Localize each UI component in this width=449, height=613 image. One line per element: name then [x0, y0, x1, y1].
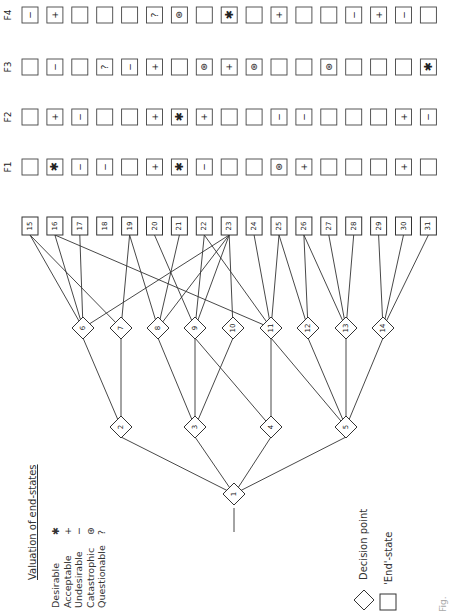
- factor-label-f4: F4: [3, 9, 13, 20]
- svg-text:8: 8: [154, 326, 162, 330]
- svg-text:+: +: [274, 11, 284, 19]
- tree-edge: [155, 235, 196, 328]
- svg-text:22: 22: [200, 222, 208, 231]
- factor-cell: ⊛: [271, 159, 287, 175]
- factor-cell: [346, 109, 362, 125]
- tree-edge: [383, 235, 404, 328]
- svg-text:−: −: [349, 11, 359, 19]
- decision-point-2: 2: [110, 416, 132, 438]
- end-state-22: 22: [196, 217, 212, 235]
- factor-cell: +: [221, 59, 237, 75]
- factor-cell: [321, 7, 337, 23]
- svg-text:3: 3: [191, 425, 199, 429]
- factor-cell: [122, 7, 138, 23]
- tree-edge: [55, 235, 271, 328]
- decision-point-11: 11: [260, 317, 282, 339]
- factor-cell: [221, 159, 237, 175]
- tree-edge: [271, 235, 279, 328]
- factor-cell: [246, 109, 262, 125]
- factor-cell: +: [396, 109, 412, 125]
- svg-text:6: 6: [79, 325, 87, 330]
- svg-text:13: 13: [342, 324, 350, 333]
- factor-cell: [271, 59, 287, 75]
- factor-cell: [22, 59, 38, 75]
- end-state-21: 21: [171, 217, 187, 235]
- factor-cell: +: [47, 109, 63, 125]
- decision-point-1: 1: [223, 483, 245, 505]
- tree-edge: [130, 235, 158, 328]
- factor-cell: ✱: [171, 109, 187, 125]
- svg-text:✱: ✱: [223, 10, 236, 19]
- svg-text:15: 15: [26, 222, 34, 231]
- svg-text:−: −: [25, 11, 35, 19]
- decision-point-13: 13: [335, 317, 357, 339]
- factor-cell: −: [420, 109, 436, 125]
- legend-decision-point-label: Decision point: [358, 509, 370, 580]
- svg-text:+: +: [199, 113, 209, 121]
- svg-text:−: −: [299, 113, 309, 121]
- svg-text:5: 5: [342, 425, 350, 429]
- svg-text:29: 29: [375, 222, 383, 231]
- factor-cell: ✱: [47, 159, 63, 175]
- tree-edge: [329, 235, 346, 328]
- svg-text:?: ?: [150, 12, 160, 17]
- factor-cell: [321, 159, 337, 175]
- end-state-20: 20: [147, 217, 163, 235]
- factor-cell: ?: [97, 59, 113, 75]
- tree-edge: [195, 235, 204, 328]
- svg-text:25: 25: [275, 222, 283, 231]
- factor-cell: ✱: [420, 59, 436, 75]
- svg-text:16: 16: [51, 221, 59, 230]
- svg-text:24: 24: [250, 221, 258, 230]
- decision-point-5: 5: [335, 416, 357, 438]
- tree-edge: [195, 437, 234, 494]
- svg-text:+: +: [150, 163, 160, 171]
- tree-edge: [234, 437, 271, 494]
- legend-label-acceptable: Acceptable: [62, 555, 74, 608]
- tree-edge: [121, 235, 130, 328]
- svg-text:19: 19: [126, 222, 134, 231]
- factor-cell: [296, 59, 312, 75]
- svg-text:+: +: [399, 113, 409, 121]
- legend-label-desirable: Desirable: [50, 563, 62, 608]
- factor-cell: [371, 159, 387, 175]
- tree-edge: [379, 235, 383, 328]
- decision-point-14: 14: [372, 317, 394, 339]
- legend-end-state-label: 'End'-state: [383, 532, 395, 585]
- svg-text:+: +: [50, 11, 60, 19]
- legend-label-catastrophic: Catastrophic: [85, 548, 97, 608]
- decision-point-8: 8: [147, 317, 169, 339]
- svg-text:⊛: ⊛: [199, 63, 209, 71]
- svg-text:−: −: [199, 163, 209, 171]
- factor-label-f3: F3: [3, 62, 13, 73]
- factor-cell: [420, 7, 436, 23]
- svg-text:11: 11: [267, 324, 275, 333]
- factor-cell: [246, 159, 262, 175]
- factor-label-f2: F2: [3, 112, 13, 123]
- factor-cell: −: [346, 7, 362, 23]
- decision-point-10: 10: [222, 317, 244, 339]
- svg-text:⊛: ⊛: [274, 163, 284, 171]
- factor-cell: −: [396, 7, 412, 23]
- factor-cell: [72, 7, 88, 23]
- end-state-27: 27: [321, 217, 337, 235]
- tree-edge: [195, 235, 229, 328]
- legend-symbol-acceptable: +: [62, 527, 74, 535]
- svg-text:17: 17: [76, 222, 84, 231]
- factor-cell: +: [296, 159, 312, 175]
- decision-point-4: 4: [260, 416, 282, 438]
- svg-text:23: 23: [225, 222, 233, 231]
- factor-cell: [221, 109, 237, 125]
- svg-text:+: +: [374, 11, 384, 19]
- end-state-24: 24: [246, 217, 262, 235]
- tree-edge: [234, 437, 346, 494]
- factor-cell: [420, 159, 436, 175]
- end-state-legend-icon: [380, 594, 396, 610]
- legend-symbol-catastrophic: ⊛: [85, 527, 97, 535]
- svg-text:−: −: [75, 113, 85, 121]
- factor-cell: +: [196, 109, 212, 125]
- tree-edge: [158, 338, 195, 427]
- svg-text:1: 1: [230, 492, 238, 496]
- factor-cell: +: [396, 159, 412, 175]
- svg-text:⊛: ⊛: [249, 63, 259, 71]
